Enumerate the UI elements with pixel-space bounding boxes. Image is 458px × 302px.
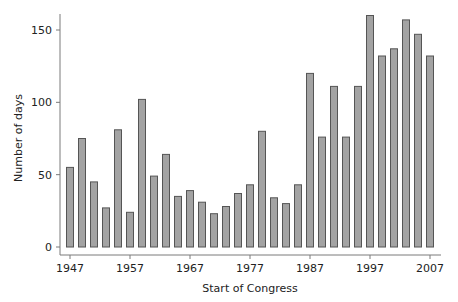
y-tick-label: 50 xyxy=(38,169,52,182)
bars-group xyxy=(67,16,434,248)
bar-1983 xyxy=(283,204,290,247)
x-axis-title: Start of Congress xyxy=(202,282,298,295)
bar-1969 xyxy=(199,202,206,247)
bar-1951 xyxy=(91,182,98,247)
bar-1967 xyxy=(187,191,194,247)
bar-1999 xyxy=(379,56,386,247)
bar-1979 xyxy=(259,131,266,247)
bar-1957 xyxy=(127,212,134,247)
y-axis-ticks: 050100150 xyxy=(31,24,60,254)
bar-1995 xyxy=(355,86,362,247)
bar-1963 xyxy=(163,154,170,247)
bar-1955 xyxy=(115,130,122,247)
bar-2007 xyxy=(427,56,434,247)
bar-2001 xyxy=(391,49,398,247)
bar-1961 xyxy=(151,176,158,247)
x-tick-label: 1957 xyxy=(116,262,144,275)
bar-1965 xyxy=(175,196,182,247)
x-tick-label: 1977 xyxy=(236,262,264,275)
y-tick-label: 150 xyxy=(31,24,52,37)
bar-2003 xyxy=(403,20,410,247)
y-tick-label: 100 xyxy=(31,96,52,109)
x-axis-ticks: 1947195719671977198719972007 xyxy=(56,255,444,275)
bar-1971 xyxy=(211,214,218,247)
bar-1973 xyxy=(223,207,230,248)
x-tick-label: 1967 xyxy=(176,262,204,275)
bar-1989 xyxy=(319,137,326,247)
bar-1981 xyxy=(271,198,278,247)
x-tick-label: 1997 xyxy=(356,262,384,275)
bar-1985 xyxy=(295,185,302,247)
bar-1947 xyxy=(67,167,74,247)
bar-2005 xyxy=(415,34,422,247)
bar-1993 xyxy=(343,137,350,247)
y-axis-title: Number of days xyxy=(12,94,25,182)
bar-1997 xyxy=(367,16,374,248)
bar-1987 xyxy=(307,73,314,247)
bar-1977 xyxy=(247,185,254,247)
x-tick-label: 2007 xyxy=(416,262,444,275)
bar-1959 xyxy=(139,99,146,247)
x-tick-label: 1987 xyxy=(296,262,324,275)
bar-1949 xyxy=(79,139,86,248)
bar-1953 xyxy=(103,208,110,247)
x-tick-label: 1947 xyxy=(56,262,84,275)
bar-1991 xyxy=(331,86,338,247)
bar-chart: 050100150 1947195719671977198719972007 S… xyxy=(0,0,458,302)
y-tick-label: 0 xyxy=(45,241,52,254)
bar-1975 xyxy=(235,194,242,248)
